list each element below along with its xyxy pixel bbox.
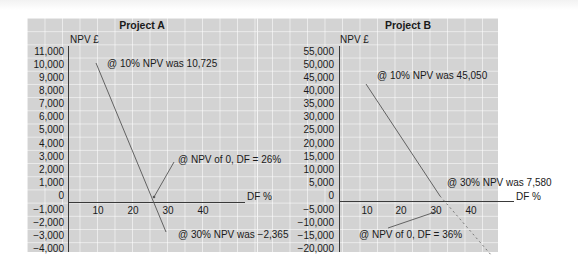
npv-line-a bbox=[96, 63, 166, 232]
irr-pointer-b bbox=[388, 211, 438, 228]
irr-point-a bbox=[153, 196, 156, 199]
irr-pointer-a bbox=[154, 162, 174, 197]
npv-line-b-extrapolated bbox=[440, 196, 492, 256]
npv-line-b bbox=[366, 84, 440, 196]
chart-lines bbox=[0, 0, 578, 265]
